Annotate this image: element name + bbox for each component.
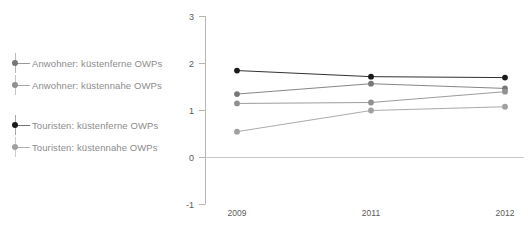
x-tick-label-2011: 2011 <box>362 208 381 218</box>
y-axis-ticks <box>199 17 206 205</box>
data-point <box>234 68 240 74</box>
y-axis: 3 2 1 0 -1 <box>186 12 206 210</box>
data-point <box>368 81 374 87</box>
y-tick-label-3: 3 <box>189 12 194 22</box>
data-point <box>368 74 374 80</box>
data-point <box>368 108 374 114</box>
data-point <box>234 91 240 97</box>
data-point <box>502 75 508 81</box>
data-point <box>234 101 240 107</box>
x-tick-label-2009: 2009 <box>228 208 247 218</box>
y-tick-label-neg1: -1 <box>186 200 194 210</box>
y-tick-label-0: 0 <box>189 153 194 163</box>
x-tick-label-2012: 2012 <box>496 208 515 218</box>
x-axis-labels: 2009 2011 2012 <box>228 208 515 218</box>
chart-plot-area: 3 2 1 0 -1 2009 2011 2012 <box>0 0 532 233</box>
data-point <box>234 129 240 135</box>
data-point <box>502 89 508 95</box>
data-point <box>502 104 508 110</box>
y-tick-label-2: 2 <box>189 59 194 69</box>
data-point <box>368 100 374 106</box>
chart-figure: Anwohner: küstenferne OWPs Anwohner: küs… <box>0 0 532 233</box>
y-tick-label-1: 1 <box>189 106 194 116</box>
